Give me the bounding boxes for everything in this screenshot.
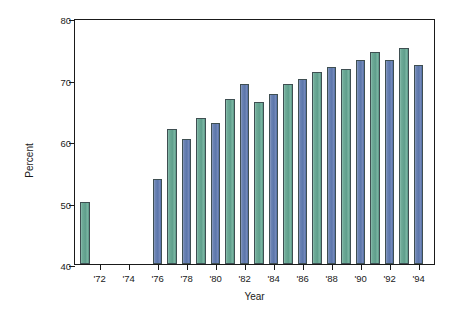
bar-chart-figure: Percent 4050607080'72'74'76'78'80'82'84'… [0,0,461,321]
bar-1977 [167,129,177,264]
bar-1980 [211,123,221,264]
x-tick-mark [100,264,101,270]
bar-1979 [196,118,206,264]
x-tick-mark [187,264,188,270]
bar-1986 [298,79,308,264]
x-tick-label: '92 [383,273,395,284]
x-axis-title: Year [74,291,435,302]
x-tick-mark [361,264,362,270]
x-tick-label: '76 [151,273,163,284]
bar-1988 [327,67,337,264]
x-tick-mark [303,264,304,270]
x-tick-mark [419,264,420,270]
x-tick-label: '78 [180,273,192,284]
x-tick-label: '84 [267,273,279,284]
y-axis-title: Percent [22,0,36,321]
y-tick-label: 70 [60,76,71,87]
bar-1971 [80,202,90,264]
bar-1984 [269,94,279,264]
x-tick-label: '86 [296,273,308,284]
x-tick-label: '90 [354,273,366,284]
plot-area: 4050607080'72'74'76'78'80'82'84'86'88'90… [74,19,435,265]
x-tick-label: '72 [93,273,105,284]
y-tick-label: 50 [60,199,71,210]
bar-1991 [370,52,380,264]
x-tick-mark [216,264,217,270]
bar-1985 [283,84,293,264]
bar-1987 [312,72,322,264]
x-tick-label: '94 [412,273,424,284]
y-axis-title-text: Percent [24,143,35,177]
bar-1976 [153,179,163,264]
x-tick-label: '88 [325,273,337,284]
x-tick-label: '82 [238,273,250,284]
x-tick-mark [158,264,159,270]
x-tick-label: '80 [209,273,221,284]
x-tick-label: '74 [122,273,134,284]
bar-1994 [414,65,424,264]
bar-1992 [385,60,395,264]
x-tick-mark [245,264,246,270]
plot-inner [75,20,434,264]
bar-1981 [225,99,235,264]
bar-1993 [399,48,409,264]
y-tick-label: 60 [60,138,71,149]
bar-1983 [254,102,264,264]
x-tick-mark [390,264,391,270]
bar-1989 [341,69,351,264]
bar-1982 [240,84,250,264]
y-tick-label: 80 [60,15,71,26]
x-tick-mark [332,264,333,270]
x-tick-mark [274,264,275,270]
x-tick-mark [129,264,130,270]
bar-1990 [356,60,366,264]
y-tick-label: 40 [60,261,71,272]
bar-1978 [182,139,192,264]
